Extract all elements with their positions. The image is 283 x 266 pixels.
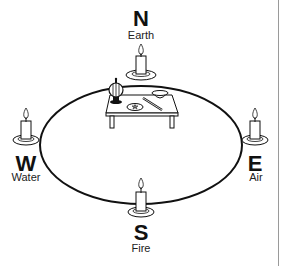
- south-element-label: Fire: [116, 242, 166, 254]
- west-element-label: Water: [1, 171, 51, 183]
- north-candle-icon: [126, 44, 156, 80]
- west-candle-icon: [13, 108, 39, 145]
- south-candle-icon: [128, 178, 154, 217]
- pentacle-plate-icon: [127, 104, 143, 111]
- north-element-label: Earth: [116, 29, 166, 41]
- east-element-label: Air: [231, 171, 281, 183]
- south-letter: S: [121, 222, 161, 244]
- east-candle-icon: [242, 108, 268, 145]
- north-letter: N: [121, 8, 161, 30]
